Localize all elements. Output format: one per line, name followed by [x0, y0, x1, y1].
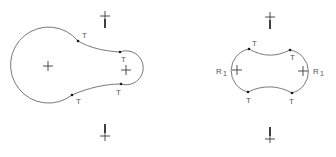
tangent-label: T — [290, 53, 295, 62]
figure-asymmetric: T T T T — [11, 11, 144, 141]
tangent-label: T — [252, 39, 257, 48]
tangent-label: T — [121, 55, 126, 64]
center-cross-icon — [121, 65, 131, 75]
pole-marker-bottom-icon — [265, 127, 275, 143]
tangent-point — [291, 92, 294, 95]
tangent-label: T — [82, 31, 87, 40]
tangent-label: T — [246, 96, 251, 105]
radius-label-subscript: 1 — [320, 70, 324, 77]
center-cross-icon — [298, 66, 308, 76]
tangent-point — [119, 51, 122, 54]
outline-asymmetric — [11, 27, 144, 103]
tangent-point — [71, 94, 74, 97]
tangent-point — [247, 91, 250, 94]
radius-label: R — [313, 67, 319, 76]
tangent-point — [77, 40, 80, 43]
tangent-point — [248, 48, 251, 51]
tangent-label: T — [76, 97, 81, 106]
radius-label: R — [216, 67, 222, 76]
tangent-label: T — [289, 97, 294, 106]
pole-marker-bottom-icon — [100, 124, 110, 141]
pole-marker-top-icon — [265, 12, 275, 29]
tangent-label: T — [116, 88, 121, 97]
figure-symmetric: T T T T R 1 R 1 — [216, 12, 324, 143]
tangent-point — [120, 83, 123, 86]
center-cross-icon — [43, 61, 53, 71]
tangent-point — [289, 49, 292, 52]
center-cross-icon — [232, 65, 242, 75]
radius-label-subscript: 1 — [223, 70, 227, 77]
diagram-canvas: T T T T T T T T R — [0, 0, 336, 157]
pole-marker-top-icon — [100, 11, 110, 28]
outline-symmetric — [231, 49, 308, 93]
